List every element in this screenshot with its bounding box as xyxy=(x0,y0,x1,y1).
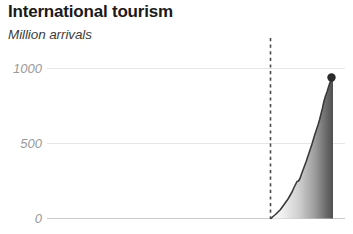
y-axis-tick-labels: 1000 500 0 xyxy=(13,61,43,226)
chart-figure: International tourism Million arrivals 1… xyxy=(0,0,353,234)
end-point-marker xyxy=(327,73,335,81)
series-area-fill xyxy=(271,78,333,219)
y-tick-label-0: 0 xyxy=(35,211,43,226)
y-tick-label-1000: 1000 xyxy=(13,61,43,76)
chart-plot-area: 1000 500 0 xyxy=(0,0,353,234)
y-tick-label-500: 500 xyxy=(20,136,42,151)
